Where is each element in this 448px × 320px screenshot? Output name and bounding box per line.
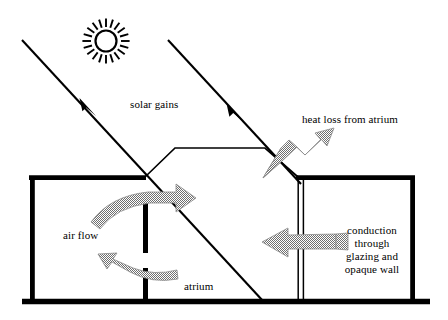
label-conduction-block: conduction through glazing and opaque wa… [333,224,411,276]
air-flow-lower-arrow-icon [98,253,178,280]
label-conduction-line-2: through [333,237,411,250]
label-air-flow: air flow [63,229,98,242]
solar-ray-arrow-icon [22,40,263,301]
label-conduction-line-3: glazing and [333,250,411,263]
sun-icon [82,19,129,64]
label-solar-gains: solar gains [130,98,178,111]
atrium-thermal-diagram: solar gains heat loss from atrium air fl… [0,0,448,320]
label-conduction-line-4: opaque wall [333,263,411,276]
label-atrium: atrium [184,280,213,293]
label-conduction-line-1: conduction [333,224,411,237]
label-heat-loss-from-atrium: heat loss from atrium [302,113,398,126]
